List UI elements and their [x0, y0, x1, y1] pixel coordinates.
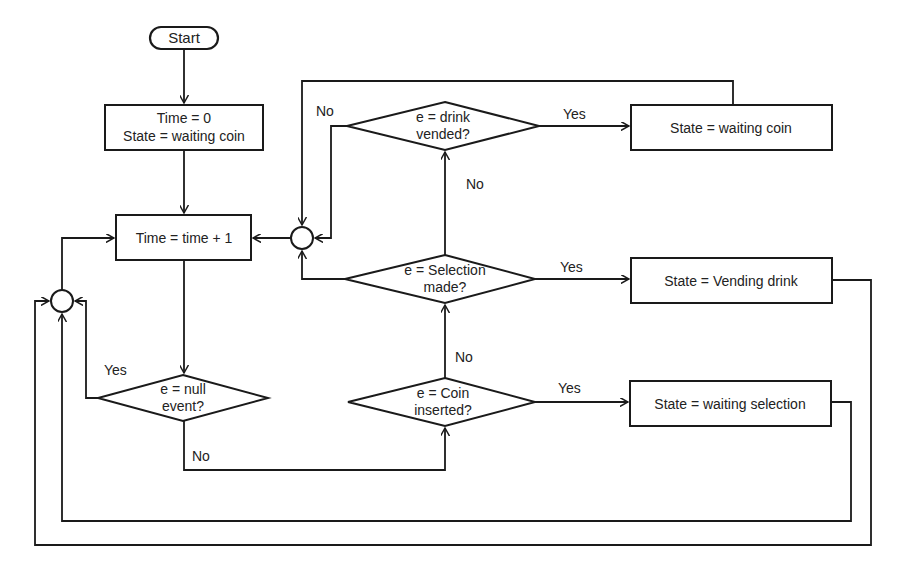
null-no-label: No [192, 448, 210, 464]
start-label: Start [168, 30, 200, 46]
state-vending-drink-label: State = Vending drink [664, 273, 798, 289]
upper-junction [291, 227, 313, 249]
coin-no-label: No [455, 349, 473, 365]
drink-vended-line1: e = drink [416, 109, 470, 125]
selection-made-line1: e = Selection [404, 262, 485, 278]
coin-inserted-line2: inserted? [414, 402, 472, 418]
state-waiting-coin-label: State = waiting coin [670, 120, 792, 136]
null-yes-label: Yes [104, 362, 127, 378]
selection-yes-label: Yes [560, 259, 583, 275]
drink-yes-label: Yes [563, 106, 586, 122]
init-time-label: Time = 0 [157, 110, 211, 126]
drink-vended-line2: vended? [416, 126, 470, 142]
null-event-line2: event? [162, 398, 204, 414]
coin-yes-label: Yes [558, 380, 581, 396]
tick-label: Time = time + 1 [136, 230, 233, 246]
state-waiting-selection-label: State = waiting selection [654, 396, 805, 412]
selection-no-label: No [466, 176, 484, 192]
init-state-label: State = waiting coin [123, 128, 245, 144]
drink-no-label: No [316, 103, 334, 119]
lower-junction [51, 290, 73, 312]
null-event-line1: e = null [160, 381, 206, 397]
selection-made-line2: made? [424, 279, 467, 295]
coin-inserted-line1: e = Coin [417, 385, 470, 401]
